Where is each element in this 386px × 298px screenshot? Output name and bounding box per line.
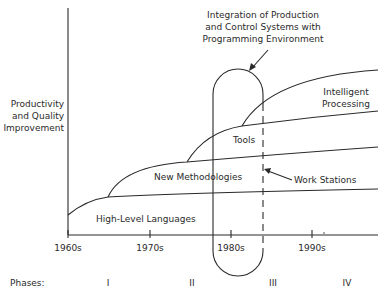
region-high-level-languages: High-Level Languages <box>96 214 196 225</box>
x-tick-label-1990s: 1990s <box>297 243 327 254</box>
work-stations-arrow-line <box>268 171 292 180</box>
integration-line-3: Programming Environment <box>198 33 328 45</box>
work-stations-label: Work Stations <box>294 175 356 186</box>
intelligent-processing-line-1: Intelligent <box>316 86 376 98</box>
integration-arrow-line <box>252 50 268 68</box>
work-stations-arrowhead-icon <box>264 168 271 174</box>
y-axis-label: Productivity and Quality Improvement <box>2 98 64 134</box>
phase-4: IV <box>337 278 357 289</box>
y-axis-label-line-2: and Quality <box>2 110 64 122</box>
y-axis-label-line-3: Improvement <box>2 122 64 134</box>
x-tick-label-1960s: 1960s <box>53 243 83 254</box>
curve-high-level-languages <box>68 189 378 215</box>
x-tick-label-1980s: 1980s <box>216 243 246 254</box>
integration-line-2: and Control Systems with <box>198 21 328 33</box>
phase-3: III <box>263 278 283 289</box>
integration-line-1: Integration of Production <box>198 9 328 21</box>
region-intelligent-processing: Intelligent Processing <box>316 86 376 110</box>
x-tick-label-1970s: 1970s <box>135 243 165 254</box>
phases-label: Phases: <box>10 278 45 289</box>
phase-1: I <box>98 278 118 289</box>
y-axis-label-line-1: Productivity <box>2 98 64 110</box>
intelligent-processing-line-2: Processing <box>316 98 376 110</box>
region-new-methodologies: New Methodologies <box>154 172 242 183</box>
phase-2: II <box>182 278 202 289</box>
region-tools: Tools <box>233 135 255 146</box>
capsule-bottom-right <box>238 251 263 276</box>
integration-annotation: Integration of Production and Control Sy… <box>198 9 328 45</box>
capsule-top-right <box>238 69 263 104</box>
